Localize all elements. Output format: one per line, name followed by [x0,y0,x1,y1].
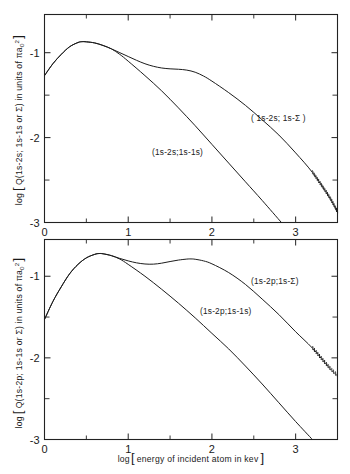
curve-label-bottom-elastic: (1s-2p;1s-1s) [200,306,252,316]
curve-label-top-elastic: (1s-2s;1s-1s) [152,147,203,157]
top-panel-tick-labels: 0123-1-2-3 [30,47,299,238]
uncertainty-band-trace [312,346,337,374]
curve-label-bottom-sigma: (1s-2p;1s-Σ) [251,276,299,286]
data-curve [45,42,282,223]
uncertainty-band-path [312,346,337,374]
x-tick-label: 3 [293,443,299,455]
x-tick-label: 1 [125,226,131,238]
y-tick-label: -2 [30,132,40,144]
data-curve [45,42,338,213]
x-title-text: energy of incident atom in kev [137,454,259,464]
top-panel-y-axis-title: log[Q(1s-2s; 1s-1s or Σ) in units of πa0… [10,35,25,205]
y-title-main-top: Q(1s-2s; 1s-1s or [14,112,24,185]
y-title-tail-top: ) in units of πa [14,47,24,106]
top-panel-curves [45,42,338,223]
y-title-sup-bottom: 2 [13,262,20,266]
bottom-panel-y-axis-title: log[Q(1s-2p; 1s-1s or Σ) in units of πa0… [10,258,25,429]
bottom-panel-frame [45,240,338,440]
y-title-prefix-top: log [14,193,24,205]
x-axis-title: log[energy of incident atom in kev] [118,450,265,465]
svg-text:log[energy of incident atom in: log[energy of incident atom in kev] [118,450,265,465]
y-tick-label: -1 [30,270,40,282]
bottom-panel: 0123-1-2-3 (1s-2p;1s-Σ) (1s-2p;1s-1s) lo… [10,240,338,455]
bottom-panel-tick-labels: 0123-1-2-3 [30,270,299,454]
y-title-tail-bottom: ) in units of πa [14,270,24,329]
y-tick-label: -1 [30,47,40,59]
y-tick-label: -2 [30,352,40,364]
x-title-prefix: log [118,454,130,464]
bottom-panel-ticks [45,240,338,440]
y-tick-label: -3 [30,434,40,446]
uncertainty-band-trace [312,173,337,213]
figure-container: 0123-1-2-3 ( 1s-2s; 1s-Σ ) (1s-2s;1s-1s)… [0,0,350,474]
curve-label-top-sigma: ( 1s-2s; 1s-Σ ) [251,113,306,123]
x-tick-label: 3 [293,226,299,238]
chart-svg: 0123-1-2-3 ( 1s-2s; 1s-Σ ) (1s-2s;1s-1s)… [0,0,350,474]
y-title-main-bottom: Q(1s-2p; 1s-1s or [14,335,24,409]
svg-text:log[Q(1s-2p; 1s-1s or Σ) in un: log[Q(1s-2p; 1s-1s or Σ) in units of πa0… [10,258,25,429]
x-tick-label: 0 [41,443,47,455]
y-title-prefix-bottom: log [14,416,24,428]
x-tick-label: 2 [209,226,215,238]
x-tick-label: 2 [209,443,215,455]
top-panel: 0123-1-2-3 ( 1s-2s; 1s-Σ ) (1s-2s;1s-1s)… [10,15,338,238]
y-title-sup-top: 2 [13,39,20,43]
x-tick-label: 0 [41,226,47,238]
svg-text:log[Q(1s-2s; 1s-1s or Σ) in un: log[Q(1s-2s; 1s-1s or Σ) in units of πa0… [10,35,25,205]
y-tick-label: -3 [30,217,40,229]
uncertainty-band-path [312,173,337,213]
